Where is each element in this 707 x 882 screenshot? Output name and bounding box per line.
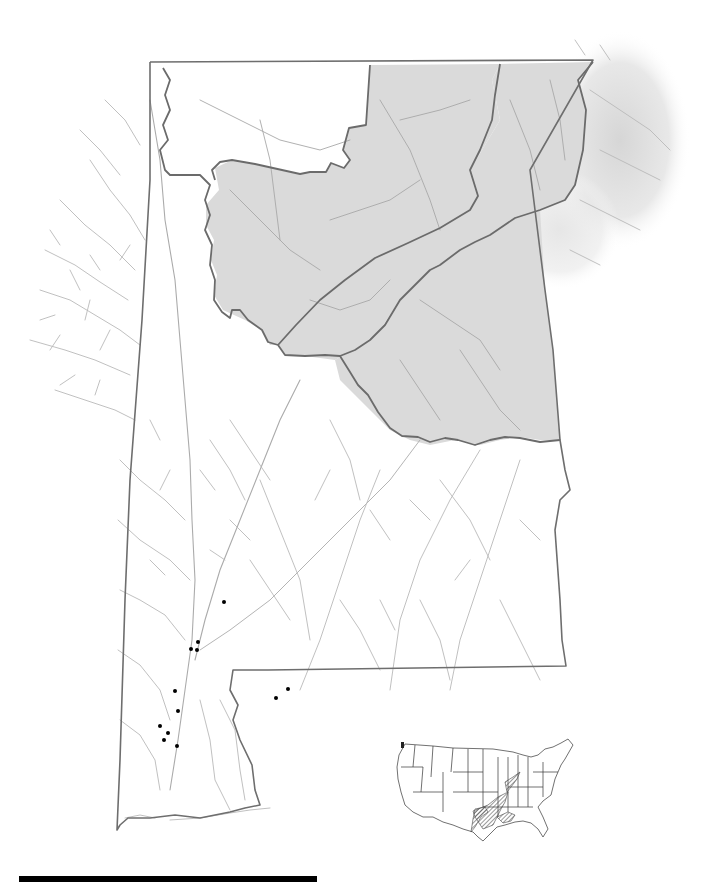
shaded-regions: [163, 62, 593, 445]
occurrence-dot: [195, 648, 199, 652]
occurrence-dot: [286, 687, 290, 691]
occurrence-points: [158, 600, 290, 748]
scale-bar: [19, 876, 317, 882]
occurrence-dot: [158, 724, 162, 728]
occurrence-dot: [175, 744, 179, 748]
occurrence-dot: [189, 647, 193, 651]
occurrence-dot: [222, 600, 226, 604]
occurrence-dot: [274, 696, 278, 700]
united-states-inset-map: [397, 739, 573, 841]
map-figure: [0, 0, 707, 882]
occurrence-dot: [176, 709, 180, 713]
occurrence-dot: [162, 738, 166, 742]
occurrence-dot: [196, 640, 200, 644]
occurrence-dot: [173, 689, 177, 693]
occurrence-dot: [166, 731, 170, 735]
alabama-map: [0, 0, 707, 882]
